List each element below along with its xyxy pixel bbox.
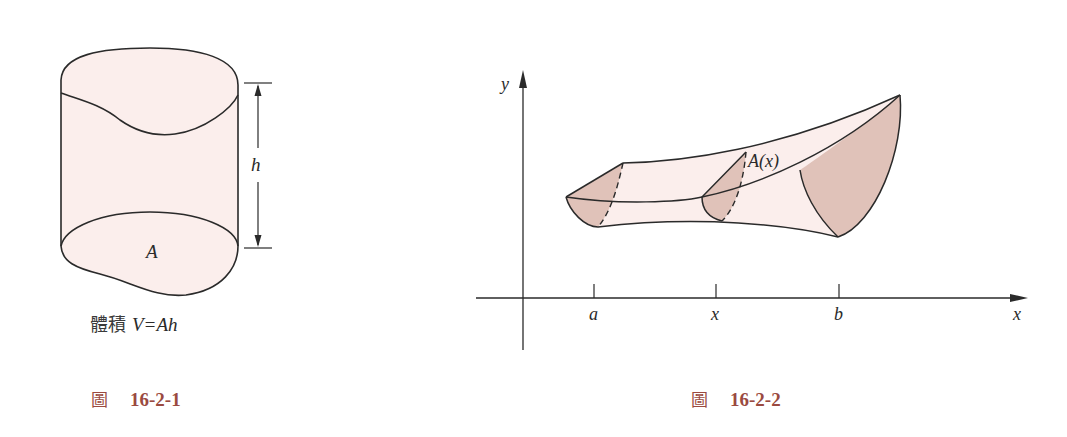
cross-section-label: A(x) xyxy=(747,151,779,172)
x-axis-arrow-icon xyxy=(1010,294,1028,302)
arrow-up-icon xyxy=(255,84,262,96)
caption-16-2-2: 16-2-2 xyxy=(730,389,781,410)
arrow-down-icon xyxy=(255,235,262,247)
figure-16-2-1: A h 體積 V=Ah 圖 16-2-1 xyxy=(61,48,272,410)
tick-label-b: b xyxy=(834,304,843,324)
figure-16-2-2: y x a x b xyxy=(476,70,1028,410)
volume-formula-prefix: 體積 xyxy=(90,314,126,335)
tick-label-a: a xyxy=(589,304,598,324)
tick-label-x: x xyxy=(710,304,719,324)
y-axis-label: y xyxy=(499,74,509,94)
caption-glyph-16-2-2: 圖 xyxy=(691,390,708,410)
volume-formula: V=Ah xyxy=(132,314,178,335)
height-label: h xyxy=(251,154,261,175)
figure-canvas: A h 體積 V=Ah 圖 16-2-1 y x a x b xyxy=(0,0,1067,437)
caption-16-2-1: 16-2-1 xyxy=(130,389,181,410)
area-label: A xyxy=(144,241,158,262)
caption-glyph-16-2-1: 圖 xyxy=(91,390,108,410)
y-axis-arrow-icon xyxy=(519,70,527,88)
x-axis-label: x xyxy=(1012,304,1021,324)
